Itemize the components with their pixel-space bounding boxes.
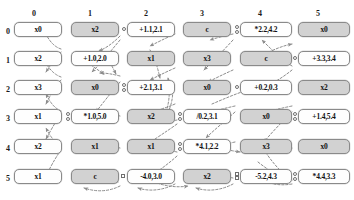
- node-c1-r3[interactable]: *1.0,5.0: [71, 109, 119, 124]
- port-ring-icon: [293, 112, 297, 116]
- row-header-4: 4: [3, 144, 13, 153]
- node-c5-r1[interactable]: +3.3,3.4: [298, 51, 350, 66]
- node-c0-r1[interactable]: x2: [14, 51, 62, 66]
- port-ring-icon: [178, 142, 182, 146]
- port-ring-icon: [178, 112, 182, 116]
- port-ring-icon: [235, 30, 239, 34]
- node-c3-r4[interactable]: *4.1,2.2: [183, 139, 231, 154]
- node-c4-r4[interactable]: x3: [240, 139, 292, 154]
- input-port-c4-r0: [235, 25, 239, 34]
- node-c0-r2[interactable]: x3: [14, 80, 62, 95]
- column-header-2: 2: [136, 9, 156, 18]
- row-header-5: 5: [3, 174, 13, 183]
- input-port-c5-r3: [293, 112, 297, 121]
- node-c3-r5[interactable]: x2: [183, 169, 231, 184]
- node-c0-r5[interactable]: x1: [14, 169, 62, 184]
- node-c2-r2[interactable]: +2.1,3.1: [127, 80, 175, 95]
- port-ring-icon: [66, 112, 70, 116]
- node-c3-r3[interactable]: /0.2,3.1: [183, 109, 231, 124]
- port-ring-icon: [293, 177, 297, 181]
- column-header-4: 4: [250, 9, 270, 18]
- node-c5-r0[interactable]: x0: [298, 22, 350, 37]
- node-c3-r2[interactable]: x0: [183, 80, 231, 95]
- node-c0-r4[interactable]: x2: [14, 139, 62, 154]
- port-square-icon: [235, 176, 239, 180]
- port-square-icon: [121, 174, 125, 178]
- input-port-c2-r5: [121, 174, 125, 178]
- input-port-c4-r2: [235, 85, 239, 89]
- node-c3-r0[interactable]: c: [183, 22, 231, 37]
- node-c1-r5[interactable]: c: [71, 169, 119, 184]
- node-c4-r3[interactable]: x0: [240, 109, 292, 124]
- node-c4-r2[interactable]: +0.2,0.3: [240, 80, 292, 95]
- port-ring-icon: [235, 25, 239, 29]
- node-c2-r5[interactable]: -4.0,3.0: [127, 169, 175, 184]
- node-c2-r1[interactable]: x1: [127, 51, 175, 66]
- port-ring-icon: [122, 83, 126, 87]
- node-c5-r4[interactable]: x0: [298, 139, 350, 154]
- port-ring-icon: [122, 88, 126, 92]
- input-port-c5-r5: [293, 172, 297, 181]
- node-c4-r1[interactable]: c: [240, 51, 292, 66]
- input-port-c5-r1: [293, 56, 297, 60]
- port-square-icon: [235, 172, 239, 176]
- node-c2-r3[interactable]: x2: [127, 109, 175, 124]
- port-ring-icon: [293, 172, 297, 176]
- node-c1-r4[interactable]: x1: [71, 139, 119, 154]
- node-c0-r0[interactable]: x0: [14, 22, 62, 37]
- node-c5-r5[interactable]: *4.4,3.3: [298, 169, 350, 184]
- node-c5-r3[interactable]: +1.4,5.4: [298, 109, 350, 124]
- input-port-c1-r3: [66, 112, 70, 121]
- port-ring-icon: [235, 85, 239, 89]
- node-c4-r5[interactable]: -5.2,4.3: [240, 169, 292, 184]
- node-c1-r0[interactable]: x2: [71, 22, 119, 37]
- input-port-c3-r3: [178, 112, 182, 121]
- row-header-1: 1: [3, 56, 13, 65]
- row-header-0: 0: [3, 27, 13, 36]
- port-ring-icon: [293, 56, 297, 60]
- node-c1-r2[interactable]: x0: [71, 80, 119, 95]
- input-port-c2-r0: [122, 27, 126, 31]
- row-header-2: 2: [3, 85, 13, 94]
- node-c3-r1[interactable]: x3: [183, 51, 231, 66]
- cgp-grid-diagram: 0 1 2 3 4 5 0 1 2 3 4 5 x0 x2 x3 x1 x2 x…: [0, 0, 354, 200]
- column-header-1: 1: [80, 9, 100, 18]
- column-header-3: 3: [192, 9, 212, 18]
- port-ring-icon: [66, 117, 70, 121]
- node-c2-r0[interactable]: +1.1,2.1: [127, 22, 175, 37]
- input-port-c2-r2: [122, 83, 126, 92]
- node-c5-r2[interactable]: x2: [298, 80, 350, 95]
- port-ring-icon: [122, 27, 126, 31]
- node-c0-r3[interactable]: x1: [14, 109, 62, 124]
- column-header-5: 5: [308, 9, 328, 18]
- column-header-0: 0: [24, 9, 44, 18]
- input-port-c4-r5: [235, 172, 239, 180]
- port-ring-icon: [178, 117, 182, 121]
- input-port-c3-r4: [178, 142, 182, 151]
- row-header-3: 3: [3, 114, 13, 123]
- node-c1-r1[interactable]: +1.0,2.0: [71, 51, 119, 66]
- port-ring-icon: [293, 117, 297, 121]
- node-c2-r4[interactable]: x1: [127, 139, 175, 154]
- port-ring-icon: [178, 147, 182, 151]
- node-c4-r0[interactable]: *2.2,4.2: [240, 22, 292, 37]
